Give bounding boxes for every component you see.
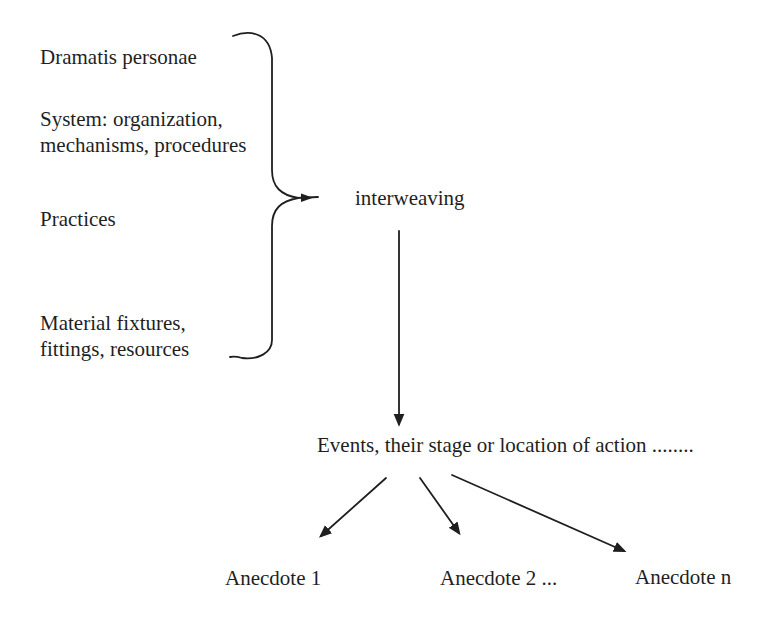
- anecdote-n-label: Anecdote n: [635, 564, 731, 590]
- diagram-figure: Dramatis personae System: organization, …: [0, 0, 773, 621]
- events-to-anecdote-n-arrow: [452, 475, 624, 551]
- component-dramatis-personae: Dramatis personae: [40, 44, 197, 70]
- anecdote-1-label: Anecdote 1: [225, 565, 321, 591]
- anecdote-2-label: Anecdote 2 ...: [440, 565, 557, 591]
- grouping-brace-icon: [230, 33, 298, 358]
- brace-cusp-arrow-icon: [301, 194, 313, 203]
- process-interweaving-label: interweaving: [355, 185, 465, 211]
- events-label: Events, their stage or location of actio…: [317, 432, 694, 458]
- component-practices: Practices: [40, 206, 116, 232]
- component-material-fixtures: Material fixtures, fittings, resources: [40, 310, 189, 362]
- events-to-anecdote-2-arrow: [420, 478, 459, 533]
- events-to-anecdote-1-arrow: [321, 478, 386, 536]
- component-system: System: organization, mechanisms, proced…: [40, 106, 246, 158]
